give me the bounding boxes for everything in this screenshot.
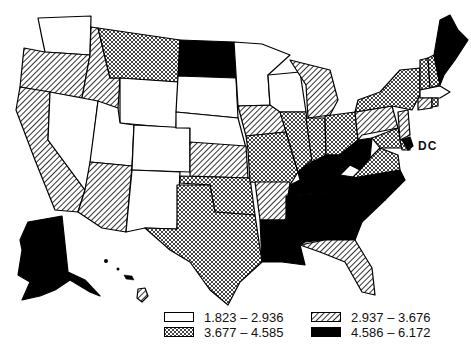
legend-label: 3.677 – 4.585 — [204, 325, 284, 340]
state-CO — [132, 125, 190, 172]
state-SD — [176, 76, 238, 118]
legend-item-1: 1.823 – 2.936 — [164, 310, 284, 324]
state-HI-island-2 — [117, 268, 120, 271]
legend-swatch-crosshatch — [164, 327, 194, 337]
state-ME — [434, 15, 468, 85]
state-WY — [120, 78, 178, 128]
legend-label: 4.586 – 6.172 — [351, 325, 431, 340]
state-NM — [126, 170, 180, 232]
state-CT — [418, 98, 432, 110]
state-MS — [283, 195, 302, 245]
legend-label: 1.823 – 2.936 — [204, 310, 284, 325]
legend-swatch-blank — [164, 312, 194, 322]
state-NJ — [398, 110, 410, 140]
state-HI-island-3 — [124, 275, 134, 280]
legend-item-3: 2.937 – 3.676 — [311, 310, 431, 324]
state-AL — [300, 193, 325, 245]
state-WA — [38, 16, 91, 55]
legend-swatch-hatch — [311, 312, 341, 322]
legend-swatch-solid — [311, 327, 341, 337]
state-KS — [190, 142, 248, 178]
legend-item-2: 3.677 – 4.585 — [164, 325, 284, 339]
state-FL — [300, 240, 375, 295]
state-MT — [98, 28, 180, 82]
state-HI-island-1 — [104, 259, 108, 263]
state-HI — [137, 288, 148, 302]
dc-label: DC — [418, 139, 437, 153]
state-RI — [432, 98, 438, 107]
state-NY — [355, 68, 420, 112]
legend-item-4: 4.586 – 6.172 — [311, 325, 431, 339]
state-AR — [255, 182, 290, 220]
legend: 1.823 – 2.936 3.677 – 4.585 2.937 – 3.67… — [164, 310, 464, 346]
state-ND — [178, 40, 236, 78]
legend-label: 2.937 – 3.676 — [351, 310, 431, 325]
state-AK — [18, 216, 100, 300]
us-choropleth-map — [0, 0, 471, 349]
state-WI — [268, 72, 306, 112]
